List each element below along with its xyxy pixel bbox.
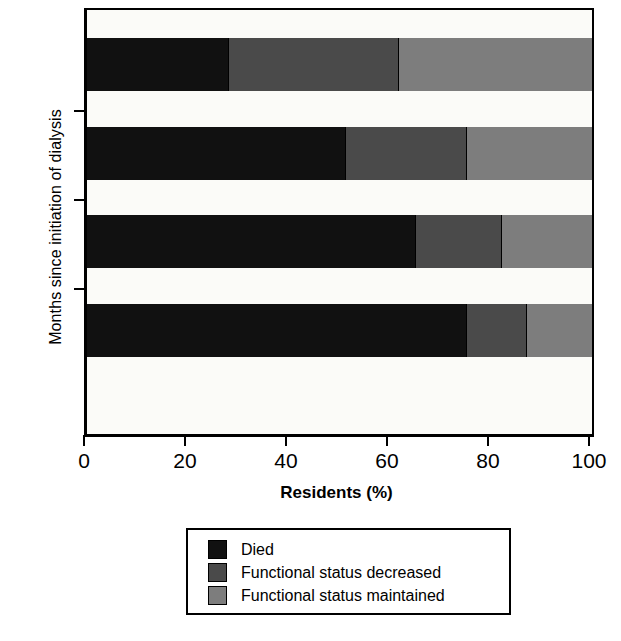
x-tick-label-80: 80 bbox=[453, 449, 523, 473]
legend-item-decreased: Functional status decreased bbox=[188, 561, 509, 584]
y-tick-mark-1 bbox=[74, 110, 84, 112]
bar-row-12 bbox=[87, 304, 592, 357]
chart-figure: Months since initiation of dialysis 3 6 … bbox=[0, 0, 621, 641]
x-tick-mark-0 bbox=[83, 435, 85, 446]
x-tick-mark-80 bbox=[487, 435, 489, 446]
x-tick-label-0: 0 bbox=[49, 449, 119, 473]
bar-segment-died bbox=[87, 304, 466, 357]
legend-swatch-died bbox=[208, 540, 227, 559]
bar-segment-decreased bbox=[228, 38, 397, 91]
bar-row-9 bbox=[87, 215, 592, 268]
x-tick-label-100: 100 bbox=[554, 449, 621, 473]
bar-segment-died bbox=[87, 215, 415, 268]
bar-segment-maintained bbox=[501, 215, 592, 268]
bar-segment-maintained bbox=[398, 38, 592, 91]
plot-area bbox=[84, 8, 594, 437]
x-tick-label-40: 40 bbox=[251, 449, 321, 473]
legend-swatch-decreased bbox=[208, 563, 227, 582]
bar-segment-maintained bbox=[466, 127, 592, 180]
x-tick-mark-40 bbox=[285, 435, 287, 446]
legend-label-maintained: Functional status maintained bbox=[241, 587, 445, 605]
x-axis-title: Residents (%) bbox=[84, 483, 589, 503]
legend-label-died: Died bbox=[241, 541, 274, 559]
x-tick-label-20: 20 bbox=[150, 449, 220, 473]
bar-segment-decreased bbox=[415, 215, 501, 268]
legend-item-died: Died bbox=[188, 538, 509, 561]
y-tick-mark-2 bbox=[74, 199, 84, 201]
bar-segment-maintained bbox=[526, 304, 592, 357]
bar-segment-decreased bbox=[466, 304, 527, 357]
x-tick-label-60: 60 bbox=[352, 449, 422, 473]
y-tick-mark-3 bbox=[74, 288, 84, 290]
legend-item-maintained: Functional status maintained bbox=[188, 584, 509, 607]
x-tick-mark-20 bbox=[184, 435, 186, 446]
bar-segment-decreased bbox=[345, 127, 466, 180]
y-axis-title: Months since initiation of dialysis bbox=[47, 67, 65, 387]
bar-row-6 bbox=[87, 127, 592, 180]
chart-legend: Died Functional status decreased Functio… bbox=[186, 528, 511, 615]
x-tick-mark-100 bbox=[588, 435, 590, 446]
legend-label-decreased: Functional status decreased bbox=[241, 564, 441, 582]
bar-segment-died bbox=[87, 127, 345, 180]
bar-row-3 bbox=[87, 38, 592, 91]
legend-swatch-maintained bbox=[208, 586, 227, 605]
x-tick-mark-60 bbox=[386, 435, 388, 446]
bar-segment-died bbox=[87, 38, 228, 91]
